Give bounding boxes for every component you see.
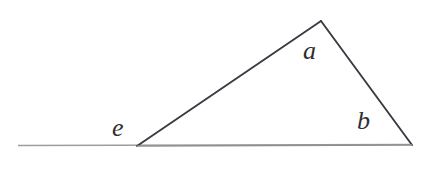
angle-label-a: a bbox=[303, 38, 316, 64]
triangle-base-side bbox=[137, 145, 412, 146]
angle-label-b: b bbox=[357, 108, 370, 134]
figure-background bbox=[0, 0, 426, 173]
figure-canvas bbox=[0, 0, 426, 173]
angle-label-e: e bbox=[112, 115, 124, 141]
geometry-figure: a b e bbox=[0, 0, 426, 173]
